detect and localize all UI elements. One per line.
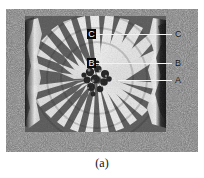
figure-panel: C B A C B A (a) xyxy=(0,0,204,178)
interference-fringe-image xyxy=(25,16,166,132)
figure-caption: (a) xyxy=(0,156,204,171)
